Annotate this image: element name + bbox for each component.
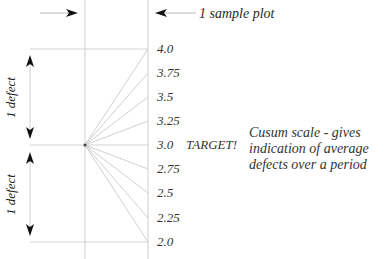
note-line: Cusum scale - gives xyxy=(249,125,369,141)
lower-defect-span-label: 1 defect xyxy=(3,175,19,215)
scale-tick: 2.0 xyxy=(157,235,173,248)
scale-tick: 2.5 xyxy=(157,186,173,199)
scale-tick: 2.25 xyxy=(157,211,180,224)
upper-defect-span-label: 1 defect xyxy=(3,78,19,118)
scale-tick: 2.75 xyxy=(157,162,180,175)
scale-tick: 3.5 xyxy=(157,90,173,103)
note-line: defects over a period xyxy=(249,157,369,173)
note-line: indication of average xyxy=(249,141,369,157)
scale-tick: 3.0 xyxy=(157,138,173,151)
scale-tick: 3.25 xyxy=(157,114,180,127)
sample-plot-label: 1 sample plot xyxy=(199,7,274,21)
cusum-note: Cusum scale - gives indication of averag… xyxy=(249,125,369,173)
scale-tick: 4.0 xyxy=(157,42,173,55)
scale-tick: 3.75 xyxy=(157,66,180,79)
target-label: TARGET! xyxy=(186,138,237,151)
origin-point xyxy=(84,144,87,147)
